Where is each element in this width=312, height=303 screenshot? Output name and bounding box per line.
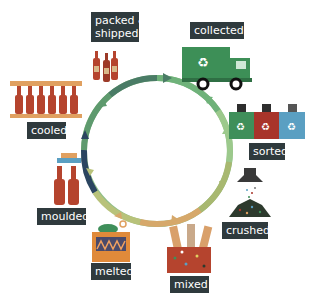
- svg-text:♻: ♻: [287, 121, 296, 132]
- recycling-bins-icon: ♻ ♻ ♻: [229, 104, 305, 139]
- mixing-tubes-icon: [167, 224, 212, 273]
- label-sorted: sorted: [249, 143, 285, 160]
- label-collected: collected: [190, 22, 244, 39]
- svg-text:♻: ♻: [197, 55, 209, 70]
- recycling-truck-icon: ♻: [182, 47, 252, 89]
- bottle-mould-icon: [54, 153, 81, 205]
- label-crushed: crushed: [222, 222, 268, 239]
- svg-text:♻: ♻: [261, 121, 270, 132]
- label-cooled: cooled: [27, 122, 66, 139]
- bottle-rack-icon: [10, 81, 82, 118]
- bottles-icon: [93, 51, 118, 82]
- label-packed-line2: shipped: [95, 27, 135, 40]
- label-mixed: mixed: [170, 276, 209, 293]
- label-melted: melted: [91, 263, 131, 280]
- furnace-icon: [92, 221, 130, 262]
- label-packed-line1: packed &: [95, 14, 135, 27]
- label-packed-shipped: packed & shipped: [91, 12, 139, 42]
- svg-text:♻: ♻: [236, 121, 245, 132]
- crusher-icon: [229, 168, 271, 217]
- label-moulded: moulded: [37, 208, 86, 225]
